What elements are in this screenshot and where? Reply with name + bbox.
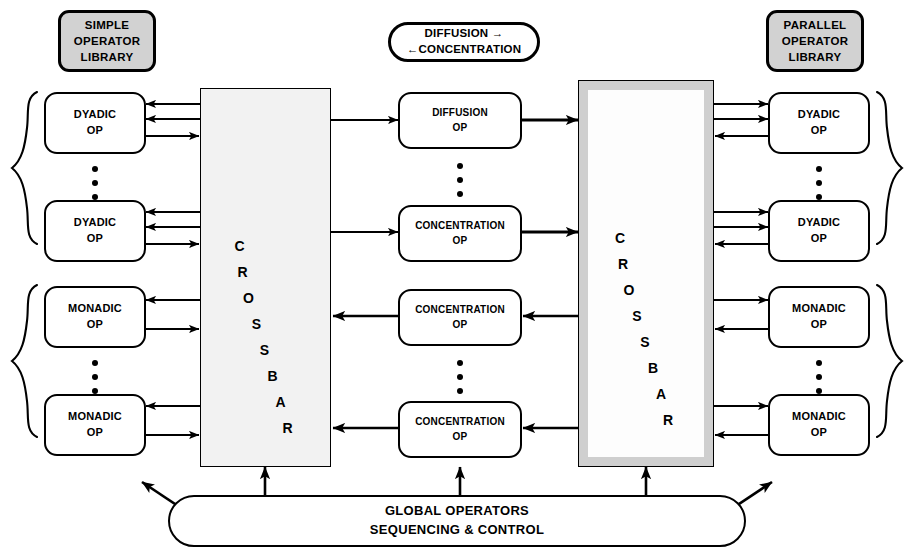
connector-left-dyadic-2 <box>146 212 200 244</box>
right-dyadic-ellipsis <box>816 166 822 200</box>
left-monadic-2-line-1: MONADIC <box>68 409 122 425</box>
brace-left-monadic <box>12 285 37 437</box>
center-operator-box-concentration-1[interactable]: CONCENTRATION OP <box>398 205 522 262</box>
left-operator-box-dyadic-1[interactable]: DYADIC OP <box>44 92 146 154</box>
parallel-operator-library-header: PARALLEL OPERATOR LIBRARY <box>766 10 864 72</box>
simple-library-line-2: OPERATOR <box>74 33 141 49</box>
crossbar-right-letter-3: O <box>624 283 635 297</box>
center-ellipsis-1 <box>457 163 463 197</box>
left-dyadic-1-line-1: DYADIC <box>74 107 116 123</box>
connector-right-dyadic-1 <box>714 104 768 136</box>
connector-layer <box>0 0 914 560</box>
simple-library-line-1: SIMPLE <box>85 17 130 33</box>
crossbar-right-letter-1: C <box>615 231 625 245</box>
right-operator-box-monadic-2[interactable]: MONADIC OP <box>768 394 870 456</box>
left-monadic-1-line-2: OP <box>87 317 103 333</box>
crossbar-left-letter-6: B <box>267 369 277 383</box>
brace-right-dyadic <box>877 92 902 244</box>
center-operator-box-concentration-3[interactable]: CONCENTRATION OP <box>398 401 522 458</box>
global-bar-line-2: SEQUENCING & CONTROL <box>370 521 544 540</box>
crossbar-right-letter-4: S <box>632 309 641 323</box>
left-operator-box-dyadic-2[interactable]: DYADIC OP <box>44 200 146 262</box>
connector-right-dyadic-2 <box>714 212 768 244</box>
simple-library-line-3: LIBRARY <box>81 49 134 65</box>
crossbar-right-letter-6: B <box>648 361 658 375</box>
center-concentration-2-line-2: OP <box>453 318 468 333</box>
center-concentration-2-line-1: CONCENTRATION <box>415 303 505 318</box>
left-monadic-1-line-1: MONADIC <box>68 301 122 317</box>
connector-left-monadic-1 <box>146 300 200 329</box>
brace-right-monadic <box>877 285 902 437</box>
right-monadic-1-line-1: MONADIC <box>792 301 846 317</box>
global-operators-bar[interactable]: GLOBAL OPERATORS SEQUENCING & CONTROL <box>168 495 746 547</box>
diagram-canvas: SIMPLE OPERATOR LIBRARY DIFFUSION → ←CON… <box>0 0 914 560</box>
right-monadic-ellipsis <box>816 360 822 394</box>
crossbar-left-letter-7: A <box>275 395 285 409</box>
connector-left-monadic-2 <box>146 406 200 435</box>
left-monadic-2-line-2: OP <box>87 425 103 441</box>
left-operator-box-monadic-1[interactable]: MONADIC OP <box>44 286 146 348</box>
crossbar-left-letter-1: C <box>234 239 244 253</box>
connector-right-monadic-2 <box>714 406 768 435</box>
diffusion-concentration-legend: DIFFUSION → ←CONCENTRATION <box>388 22 540 62</box>
connector-left-dyadic-1 <box>146 104 200 136</box>
crossbar-left-letter-8: R <box>282 421 292 435</box>
right-dyadic-2-line-1: DYADIC <box>798 215 840 231</box>
connector-right-monadic-1 <box>714 300 768 329</box>
crossbar-left[interactable]: C R O S S B A R <box>200 88 331 467</box>
center-diffusion-1-line-1: DIFFUSION <box>432 106 488 121</box>
right-monadic-1-line-2: OP <box>811 317 827 333</box>
parallel-library-line-3: LIBRARY <box>789 49 842 65</box>
left-dyadic-ellipsis <box>92 166 98 200</box>
brace-left-dyadic <box>12 92 37 244</box>
crossbar-left-letter-5: S <box>260 343 269 357</box>
center-operator-box-diffusion-1[interactable]: DIFFUSION OP <box>398 92 522 149</box>
simple-operator-library-header: SIMPLE OPERATOR LIBRARY <box>58 10 156 72</box>
right-operator-box-dyadic-2[interactable]: DYADIC OP <box>768 200 870 262</box>
center-concentration-1-line-2: OP <box>453 234 468 249</box>
right-dyadic-1-line-2: OP <box>811 123 827 139</box>
crossbar-left-label: C R O S S B A R <box>201 239 330 447</box>
crossbar-right-label: C R O S S B A R <box>579 231 713 439</box>
crossbar-right-letter-8: R <box>663 413 673 427</box>
right-monadic-2-line-2: OP <box>811 425 827 441</box>
crossbar-right-letter-5: S <box>640 335 649 349</box>
right-dyadic-2-line-2: OP <box>811 231 827 247</box>
left-dyadic-2-line-2: OP <box>87 231 103 247</box>
right-monadic-2-line-1: MONADIC <box>792 409 846 425</box>
right-operator-box-dyadic-1[interactable]: DYADIC OP <box>768 92 870 154</box>
left-dyadic-1-line-2: OP <box>87 123 103 139</box>
legend-line-diffusion: DIFFUSION → <box>425 26 504 42</box>
center-concentration-3-line-1: CONCENTRATION <box>415 415 505 430</box>
right-operator-box-monadic-1[interactable]: MONADIC OP <box>768 286 870 348</box>
right-dyadic-1-line-1: DYADIC <box>798 107 840 123</box>
center-ellipsis-2 <box>457 360 463 394</box>
center-concentration-3-line-2: OP <box>453 430 468 445</box>
legend-line-concentration: ←CONCENTRATION <box>407 42 521 58</box>
crossbar-left-letter-3: O <box>243 291 254 305</box>
crossbar-right[interactable]: C R O S S B A R <box>578 80 714 467</box>
crossbar-right-letter-7: A <box>656 387 666 401</box>
left-dyadic-2-line-1: DYADIC <box>74 215 116 231</box>
left-monadic-ellipsis <box>92 360 98 394</box>
left-operator-box-monadic-2[interactable]: MONADIC OP <box>44 394 146 456</box>
global-bar-line-1: GLOBAL OPERATORS <box>385 502 529 521</box>
crossbar-left-letter-4: S <box>252 317 261 331</box>
parallel-library-line-1: PARALLEL <box>784 17 847 33</box>
center-concentration-1-line-1: CONCENTRATION <box>415 219 505 234</box>
center-operator-box-concentration-2[interactable]: CONCENTRATION OP <box>398 289 522 346</box>
parallel-library-line-2: OPERATOR <box>782 33 849 49</box>
crossbar-right-letter-2: R <box>618 257 628 271</box>
center-diffusion-1-line-2: OP <box>453 121 468 136</box>
crossbar-left-letter-2: R <box>237 265 247 279</box>
